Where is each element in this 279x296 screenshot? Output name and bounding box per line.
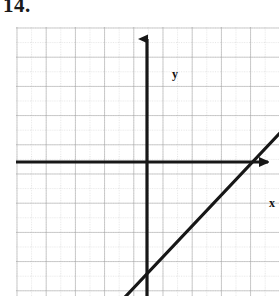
- y-axis-label: y: [172, 68, 178, 80]
- graph-svg: [16, 27, 279, 296]
- problem-number-label: 14.: [3, 0, 31, 16]
- coordinate-graph: y x: [16, 27, 279, 296]
- x-axis-label: x: [269, 197, 275, 209]
- worksheet-page: 14.: [0, 0, 279, 296]
